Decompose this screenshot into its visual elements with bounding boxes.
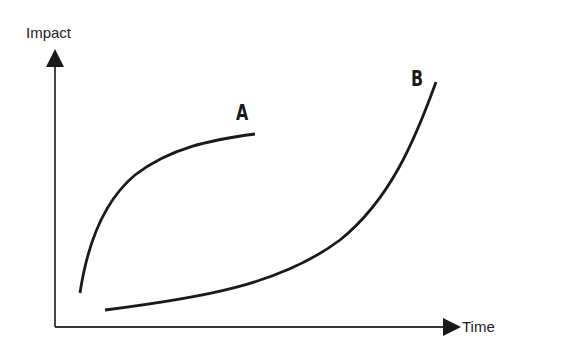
diagram-graphics (0, 0, 562, 353)
y-axis-label: Impact (26, 24, 71, 41)
x-axis-label: Time (462, 318, 495, 335)
curve-a (80, 134, 255, 293)
curve-a-label: A (236, 100, 248, 125)
impact-time-diagram: Impact Time A B (0, 0, 562, 353)
curve-b-label: B (411, 66, 423, 91)
curve-b (105, 82, 436, 310)
